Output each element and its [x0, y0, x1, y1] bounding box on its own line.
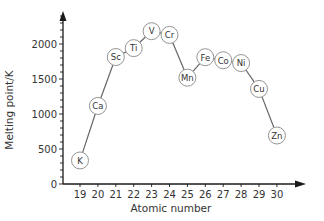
- x-tick-label: 22: [127, 189, 140, 200]
- data-point-fe: Fe: [197, 49, 214, 66]
- data-point-sc: Sc: [107, 49, 124, 66]
- element-symbol-label: V: [149, 26, 155, 36]
- element-symbol-label: Co: [218, 56, 229, 66]
- y-tick-label: 1000: [32, 109, 57, 120]
- y-tick-label: 500: [38, 144, 57, 155]
- data-point-cr: Cr: [161, 26, 178, 43]
- data-line-segment: [101, 65, 113, 98]
- data-line-segment: [193, 64, 200, 72]
- element-symbol-label: Ti: [129, 43, 137, 53]
- element-symbol-label: Cu: [253, 84, 264, 94]
- data-line-segment: [173, 43, 184, 70]
- data-point-zn: Zn: [268, 127, 285, 144]
- y-tick-label: 0: [51, 179, 57, 190]
- data-line-segment: [140, 37, 146, 42]
- x-axis-label: Atomic number: [131, 202, 212, 214]
- x-tick-label: 25: [181, 189, 194, 200]
- data-markers: KCaScTiVCrMnFeCoNiCuZn: [72, 23, 286, 169]
- x-tick-label: 24: [163, 189, 176, 200]
- x-tick-label: 21: [109, 189, 122, 200]
- data-point-mn: Mn: [179, 69, 196, 86]
- data-point-ti: Ti: [125, 40, 142, 57]
- element-symbol-label: Ni: [237, 58, 246, 68]
- data-line-segment: [262, 97, 274, 128]
- y-tick-label: 1500: [32, 74, 57, 85]
- element-symbol-label: Zn: [271, 131, 282, 141]
- x-axis-arrow-icon: [295, 181, 306, 188]
- x-tick-label: 27: [217, 189, 230, 200]
- data-line-segment: [83, 114, 96, 152]
- element-symbol-label: Ca: [92, 101, 103, 111]
- ticks: 0500100015002000192021222324252627282930: [32, 16, 284, 200]
- x-tick-label: 20: [92, 189, 105, 200]
- element-symbol-label: Cr: [165, 30, 175, 40]
- data-point-ni: Ni: [233, 55, 250, 72]
- data-point-cu: Cu: [251, 80, 268, 97]
- x-tick-label: 19: [74, 189, 87, 200]
- data-line-segment: [246, 70, 254, 82]
- x-tick-label: 23: [145, 189, 158, 200]
- data-point-k: K: [72, 152, 89, 169]
- melting-point-chart: 0500100015002000192021222324252627282930…: [0, 0, 324, 221]
- data-point-v: V: [143, 23, 160, 40]
- data-point-ca: Ca: [89, 97, 106, 114]
- element-symbol-label: Sc: [111, 52, 121, 62]
- x-tick-label: 30: [271, 189, 284, 200]
- element-symbol-label: K: [77, 156, 83, 166]
- element-symbol-label: Fe: [200, 53, 210, 63]
- x-tick-label: 28: [235, 189, 248, 200]
- data-point-co: Co: [215, 52, 232, 69]
- x-tick-label: 26: [199, 189, 212, 200]
- y-axis-label: Melting point/K: [3, 69, 15, 149]
- y-tick-label: 2000: [32, 39, 57, 50]
- x-tick-label: 29: [253, 189, 266, 200]
- element-symbol-label: Mn: [181, 73, 194, 83]
